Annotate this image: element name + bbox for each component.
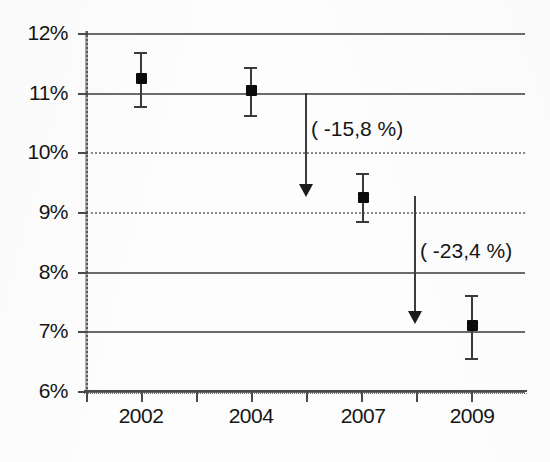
x-tick-3 [251,391,253,402]
y-axis-label-7: 7% [8,319,68,343]
y-axis-label-6: 6% [8,379,68,403]
x-axis-label-2009: 2009 [427,404,517,428]
x-tick-1 [141,391,143,402]
gridline-12 [86,33,525,35]
x-tick-0 [86,391,88,402]
x-tick-5 [361,391,363,402]
y-axis-label-9: 9% [8,200,68,224]
chart-figure: 12% 11% 10% 9% 8% 7% 6% 2002 2004 2007 2… [0,0,550,462]
marker-2002 [136,73,147,84]
x-axis-label-2007: 2007 [318,404,408,428]
error-cap-top-2002 [134,52,147,54]
y-axis-label-10: 10% [8,140,68,164]
x-tick-2 [196,391,198,402]
annotation-arrow-1-head [299,184,313,197]
annotation-arrow-2-shaft [414,196,416,312]
marker-2004 [246,85,257,96]
y-tick-7 [78,331,88,333]
error-cap-top-2004 [244,67,257,69]
y-tick-11 [78,93,88,95]
y-axis-label-11: 11% [8,81,68,105]
y-axis-label-8: 8% [8,260,68,284]
marker-2009 [467,320,478,331]
error-cap-bottom-2004 [244,115,257,117]
error-cap-bottom-2007 [356,221,369,223]
error-cap-top-2009 [465,295,478,297]
error-cap-bottom-2002 [134,106,147,108]
annotation-arrow-1-shaft [305,93,307,185]
gridline-9 [86,212,525,214]
y-tick-10 [78,152,88,154]
gridline-8 [86,272,525,274]
x-axis-label-2002: 2002 [96,404,186,428]
gridline-7 [86,331,525,333]
y-axis-label-12: 12% [8,21,68,45]
y-tick-12 [78,33,88,35]
x-axis-label-2004: 2004 [206,404,296,428]
annotation-arrow-2-head [408,311,422,324]
x-tick-7 [471,391,473,402]
x-tick-4 [306,391,308,402]
annotation-label-2: ( -23,4 %) [420,239,512,263]
plot-area [86,33,525,391]
marker-2007 [358,192,369,203]
error-cap-bottom-2009 [465,358,478,360]
x-tick-6 [416,391,418,402]
error-cap-top-2007 [356,173,369,175]
annotation-label-1: ( -15,8 %) [311,117,403,141]
y-tick-8 [78,272,88,274]
y-tick-9 [78,212,88,214]
